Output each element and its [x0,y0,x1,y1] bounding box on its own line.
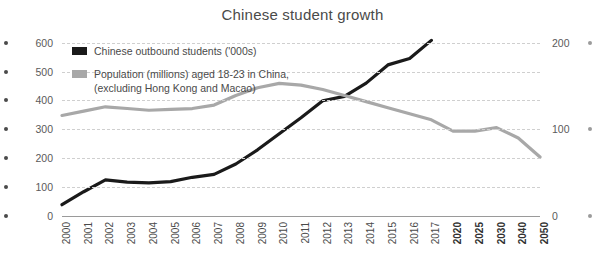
gridline [62,158,540,159]
x-axis-tick-label: 2009 [256,222,267,244]
x-axis-tick-label: 2012 [321,222,332,244]
y-axis-tick-left: 600 [13,37,53,49]
legend-swatch-grey [72,70,87,78]
y-axis-tick-dot-right [588,127,592,131]
y-axis-tick-left: 200 [13,152,53,164]
y-axis-tick-right: 0 [552,210,582,222]
y-axis-tick-left: 300 [13,123,53,135]
x-axis-tick-label: 2006 [191,222,202,244]
x-axis-tick-label: 2011 [300,222,311,244]
x-axis-tick-label: 2017 [430,222,441,244]
x-axis-tick-label: 2002 [104,222,115,244]
y-axis-tick-dot-right [588,214,592,218]
y-axis-tick-dot-left [4,98,8,102]
legend-label-population-line1: Population (millions) aged 18-23 in Chin… [94,67,289,81]
x-axis-tick-label: 2014 [365,222,376,244]
y-axis-tick-left: 500 [13,66,53,78]
y-axis-tick-dot-left [4,41,8,45]
gridline [62,187,540,188]
x-axis-tick-label: 2000 [61,222,72,244]
y-axis-tick-dot-left [4,156,8,160]
y-axis-tick-left: 400 [13,94,53,106]
x-axis-tick-label: 2030 [495,222,506,244]
chart-container: Chinese student growth 01002003004005006… [0,0,605,270]
x-axis-tick-label: 2007 [213,222,224,244]
y-axis-tick-dot-left [4,70,8,74]
y-axis-tick-dot-left [4,214,8,218]
legend-label-population-line2: (excluding Hong Kong and Macao) [94,81,289,95]
x-axis-tick-label: 2003 [126,222,137,244]
x-axis-tick-label: 2025 [473,222,484,244]
x-axis-tick-label: 2015 [386,222,397,244]
x-axis-tick-label: 2004 [147,222,158,244]
x-axis-tick-label: 2001 [82,222,93,244]
x-axis-tick-label: 2013 [343,222,354,244]
x-axis-tick-label: 2050 [539,222,550,244]
y-axis-tick-right: 100 [552,123,582,135]
legend-swatch-black [72,47,87,55]
x-axis-tick-label: 2040 [517,222,528,244]
y-axis-tick-left: 0 [13,210,53,222]
y-axis-tick-dot-left [4,127,8,131]
x-axis-tick-label: 2020 [452,222,463,244]
x-axis-tick-label: 2016 [408,222,419,244]
legend-label-outbound-students: Chinese outbound students ('000s) [94,44,257,58]
gridline [62,129,540,130]
y-axis-tick-dot-right [588,41,592,45]
x-axis-tick-label: 2010 [278,222,289,244]
x-axis-tick-label: 2008 [234,222,245,244]
x-axis-tick-label: 2005 [169,222,180,244]
x-axis-line [62,216,540,217]
y-axis-tick-dot-left [4,185,8,189]
chart-legend: Chinese outbound students ('000s) Popula… [72,44,289,104]
y-axis-tick-right: 200 [552,37,582,49]
chart-title: Chinese student growth [0,6,605,23]
legend-item-population: Population (millions) aged 18-23 in Chin… [72,67,289,95]
legend-item-outbound-students: Chinese outbound students ('000s) [72,44,289,58]
y-axis-tick-left: 100 [13,181,53,193]
